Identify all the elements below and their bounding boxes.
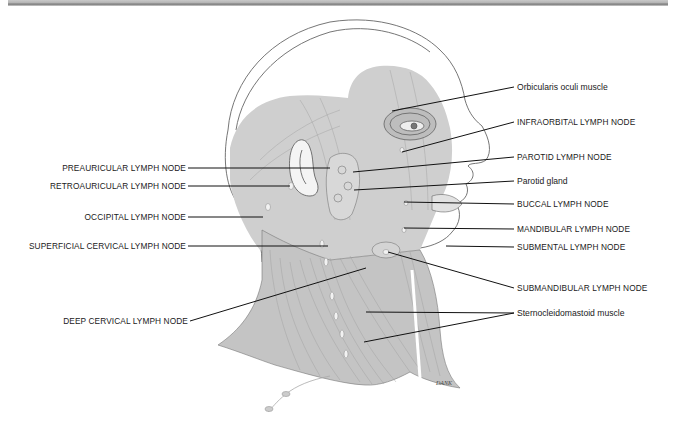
lymphatic-vessel bbox=[265, 376, 330, 412]
label-submental-lymph-node: SUBMENTAL LYMPH NODE bbox=[517, 242, 625, 252]
label-superficial-cervical-lymph-node: SUPERFICIAL CERVICAL LYMPH NODE bbox=[29, 241, 186, 251]
eye bbox=[384, 108, 436, 140]
label-mandibular-lymph-node: MANDIBULAR LYMPH NODE bbox=[517, 224, 630, 234]
label-submandibular-lymph-node: SUBMANDIBULAR LYMPH NODE bbox=[517, 283, 647, 293]
label-retroauricular-lymph-node: RETROAURICULAR LYMPH NODE bbox=[50, 181, 186, 191]
label-infraorbital-lymph-node: INFRAORBITAL LYMPH NODE bbox=[517, 117, 635, 127]
label-preauricular-lymph-node: PREAURICULAR LYMPH NODE bbox=[62, 163, 186, 173]
label-sternocleidomastoid-muscle: Sternocleidomastoid muscle bbox=[517, 308, 624, 318]
label-parotid-gland: Parotid gland bbox=[517, 176, 568, 186]
label-occipital-lymph-node: OCCIPITAL LYMPH NODE bbox=[85, 212, 186, 222]
label-buccal-lymph-node: BUCCAL LYMPH NODE bbox=[517, 199, 609, 209]
head-neck-illustration: DANK bbox=[0, 0, 674, 421]
label-deep-cervical-lymph-node: DEEP CERVICAL LYMPH NODE bbox=[63, 316, 188, 326]
label-parotid-lymph-node: PAROTID LYMPH NODE bbox=[517, 152, 612, 162]
artist-signature: DANK bbox=[435, 380, 453, 386]
label-orbicularis-oculi-muscle: Orbicularis oculi muscle bbox=[517, 82, 608, 92]
